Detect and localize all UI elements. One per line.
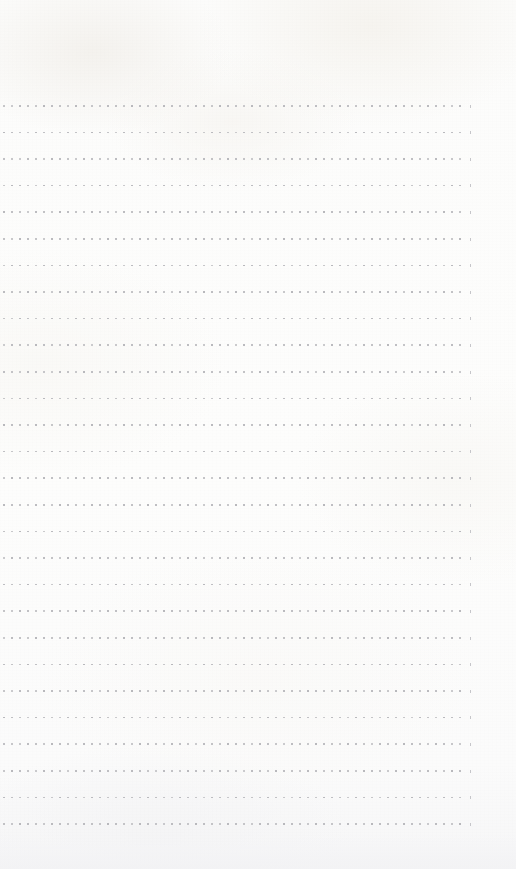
rule-dot	[331, 158, 333, 160]
rule-dot	[291, 424, 293, 426]
rule-dot	[299, 424, 301, 426]
rule-dot	[3, 690, 5, 692]
rule-dot	[131, 398, 133, 400]
rule-dot	[115, 132, 117, 134]
rule-dot	[459, 344, 461, 346]
rule-dot	[99, 557, 101, 559]
rule-dot	[259, 504, 261, 506]
rule-dot	[251, 717, 253, 719]
rule-dot	[163, 690, 165, 692]
rule-dot	[171, 743, 173, 745]
rule-dot	[419, 743, 421, 745]
rule-dot	[403, 265, 405, 267]
rule-dot	[435, 717, 437, 719]
rule-dot	[459, 105, 461, 107]
rule-dot	[43, 823, 45, 825]
rule-dot	[459, 584, 461, 586]
rule-dot	[267, 398, 269, 400]
rule-dot	[59, 398, 61, 400]
rule-dot	[19, 717, 21, 719]
rule-dot	[219, 105, 221, 107]
rule-dot	[251, 344, 253, 346]
rule-dot	[323, 504, 325, 506]
rule-dot	[235, 477, 237, 479]
rule-dot	[187, 557, 189, 559]
rule-dot	[155, 265, 157, 267]
rule-dot	[203, 584, 205, 586]
rule-dot	[427, 637, 429, 639]
rule-dot	[67, 584, 69, 586]
rule-dot	[283, 637, 285, 639]
rule-dot	[43, 690, 45, 692]
rule-dot	[267, 238, 269, 240]
rule-dot	[139, 158, 141, 160]
ruled-line	[0, 344, 516, 346]
rule-dot	[163, 797, 165, 799]
rule-dot	[339, 371, 341, 373]
rule-dot	[123, 770, 125, 772]
rule-dot	[299, 344, 301, 346]
rule-dot	[91, 265, 93, 267]
rule-dot	[75, 132, 77, 134]
rule-dot	[339, 690, 341, 692]
rule-dot	[291, 531, 293, 533]
rule-dot	[123, 238, 125, 240]
rule-dot	[315, 531, 317, 533]
rule-dot	[427, 664, 429, 666]
rule-dot	[43, 717, 45, 719]
rule-dot	[243, 265, 245, 267]
rule-end-tick	[470, 530, 471, 533]
rule-dot	[435, 451, 437, 453]
rule-dot	[331, 504, 333, 506]
rule-dot	[187, 424, 189, 426]
rule-dot	[379, 717, 381, 719]
rule-dot	[411, 477, 413, 479]
rule-dot	[11, 504, 13, 506]
rule-dot	[107, 557, 109, 559]
rule-dot	[43, 451, 45, 453]
rule-dot	[27, 132, 29, 134]
rule-dot	[259, 371, 261, 373]
rule-dot	[155, 158, 157, 160]
rule-dot	[283, 477, 285, 479]
rule-dot	[155, 610, 157, 612]
rule-dot	[115, 185, 117, 187]
ruled-line	[0, 477, 516, 479]
rule-dot	[251, 504, 253, 506]
rule-dot	[379, 158, 381, 160]
rule-dot	[403, 132, 405, 134]
rule-dot	[299, 398, 301, 400]
rule-dot	[107, 610, 109, 612]
rule-dot	[211, 477, 213, 479]
rule-dot	[235, 504, 237, 506]
rule-dot	[211, 584, 213, 586]
rule-dot	[387, 265, 389, 267]
rule-dot	[363, 371, 365, 373]
rule-dot	[395, 238, 397, 240]
rule-dot	[211, 185, 213, 187]
rule-dot	[107, 158, 109, 160]
rule-dot	[283, 132, 285, 134]
rule-dot	[107, 637, 109, 639]
rule-dot	[171, 158, 173, 160]
rule-dot	[331, 477, 333, 479]
rule-dot	[75, 610, 77, 612]
rule-dot	[219, 823, 221, 825]
rule-dot	[443, 238, 445, 240]
rule-dot	[379, 504, 381, 506]
rule-dot	[259, 318, 261, 320]
rule-dot	[291, 185, 293, 187]
rule-dot	[267, 451, 269, 453]
rule-dot	[211, 265, 213, 267]
rule-dot	[19, 610, 21, 612]
rule-dot	[315, 158, 317, 160]
rule-dot	[235, 318, 237, 320]
rule-dot	[19, 424, 21, 426]
rule-dot	[91, 584, 93, 586]
rule-dot	[171, 531, 173, 533]
rule-dot	[451, 797, 453, 799]
rule-dot	[35, 610, 37, 612]
rule-dot	[75, 371, 77, 373]
rule-dot	[115, 664, 117, 666]
rule-dot	[211, 610, 213, 612]
